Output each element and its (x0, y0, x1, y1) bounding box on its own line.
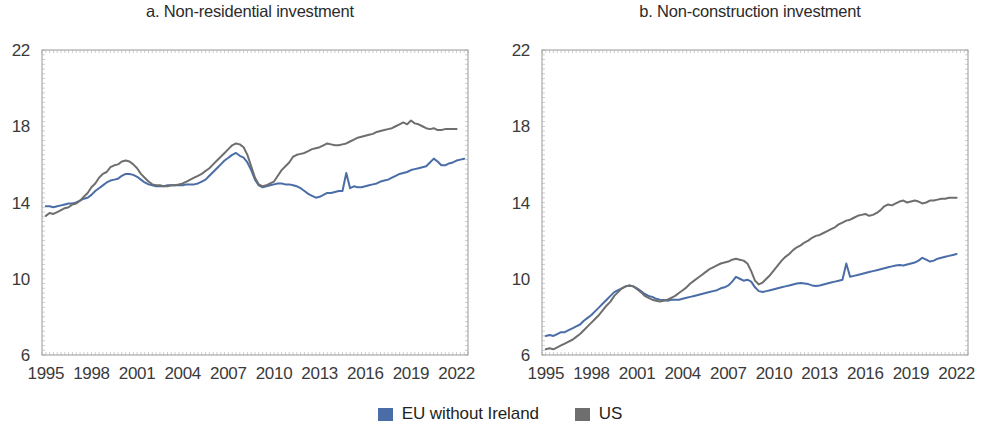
svg-text:14: 14 (512, 194, 530, 213)
panel-b-chart-svg: 6101418221995199820012004200720102013201… (500, 0, 1000, 392)
svg-text:6: 6 (521, 346, 530, 365)
svg-text:18: 18 (512, 117, 530, 136)
svg-text:2007: 2007 (710, 364, 747, 383)
panel-b-plot-area: 6101418221995199820012004200720102013201… (500, 0, 1000, 392)
panel-b: b. Non-construction investment 610141822… (500, 0, 1000, 392)
svg-text:2004: 2004 (164, 364, 201, 383)
panel-a-chart-svg: 6101418221995199820012004200720102013201… (0, 0, 500, 392)
svg-text:2019: 2019 (893, 364, 930, 383)
svg-text:1998: 1998 (73, 364, 110, 383)
svg-text:2016: 2016 (347, 364, 384, 383)
chart-legend: EU without Ireland US (0, 396, 1000, 432)
svg-text:22: 22 (512, 41, 530, 60)
svg-text:2013: 2013 (801, 364, 838, 383)
legend-swatch-icon-eu (378, 408, 393, 421)
svg-text:2001: 2001 (619, 364, 656, 383)
svg-text:22: 22 (12, 41, 30, 60)
panel-a: a. Non-residential investment 6101418221… (0, 0, 500, 392)
svg-text:1995: 1995 (27, 364, 64, 383)
legend-entry-eu: EU without Ireland (378, 404, 539, 424)
svg-text:2022: 2022 (938, 364, 975, 383)
svg-text:6: 6 (21, 346, 30, 365)
svg-text:2007: 2007 (210, 364, 247, 383)
svg-text:10: 10 (12, 270, 30, 289)
svg-text:14: 14 (12, 194, 30, 213)
svg-text:1998: 1998 (573, 364, 610, 383)
legend-label-eu: EU without Ireland (402, 404, 539, 424)
svg-text:1995: 1995 (527, 364, 564, 383)
svg-text:10: 10 (512, 270, 530, 289)
svg-text:2022: 2022 (438, 364, 475, 383)
svg-text:2013: 2013 (301, 364, 338, 383)
legend-swatch-icon-us (575, 408, 590, 421)
svg-text:2016: 2016 (847, 364, 884, 383)
svg-text:2019: 2019 (393, 364, 430, 383)
legend-label-us: US (599, 404, 622, 424)
legend-entry-us: US (575, 404, 622, 424)
panel-a-plot-area: 6101418221995199820012004200720102013201… (0, 0, 500, 392)
svg-text:2004: 2004 (664, 364, 701, 383)
svg-text:2001: 2001 (119, 364, 156, 383)
svg-text:18: 18 (12, 117, 30, 136)
svg-text:2010: 2010 (256, 364, 293, 383)
panels-container: a. Non-residential investment 6101418221… (0, 0, 1000, 392)
figure-root: a. Non-residential investment 6101418221… (0, 0, 1000, 432)
svg-text:2010: 2010 (756, 364, 793, 383)
